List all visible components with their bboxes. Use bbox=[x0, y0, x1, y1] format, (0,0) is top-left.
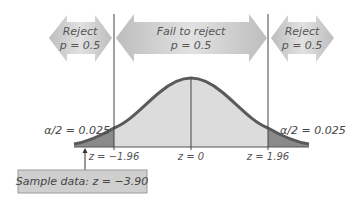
z-label-center: z = 0 bbox=[177, 151, 204, 162]
left-tail-label: α/2 = 0.025 bbox=[44, 124, 110, 137]
fail-to-reject-arrow: Fail to reject p = 0.5 bbox=[116, 14, 267, 62]
z-label-right: z = 1.96 bbox=[246, 151, 289, 162]
z-label-left: z = −1.96 bbox=[88, 151, 140, 162]
sample-data-box: Sample data: z = −3.90 bbox=[16, 170, 148, 193]
reject-right-label: Reject bbox=[285, 25, 320, 38]
reject-left-label: Reject bbox=[63, 25, 98, 38]
hypothesis-test-diagram: Reject p = 0.5 Fail to reject p = 0.5 Re… bbox=[0, 0, 356, 203]
sample-data-label: Sample data: z = −3.90 bbox=[16, 175, 148, 188]
right-tail-label: α/2 = 0.025 bbox=[280, 124, 346, 137]
fail-to-reject-p: p = 0.5 bbox=[170, 39, 212, 52]
fail-to-reject-label: Fail to reject bbox=[157, 25, 226, 38]
reject-left-arrow: Reject p = 0.5 bbox=[49, 15, 112, 62]
reject-right-p: p = 0.5 bbox=[281, 39, 323, 52]
sample-arrow-icon bbox=[83, 148, 88, 170]
reject-left-p: p = 0.5 bbox=[59, 39, 101, 52]
reject-right-arrow: Reject p = 0.5 bbox=[271, 15, 334, 62]
